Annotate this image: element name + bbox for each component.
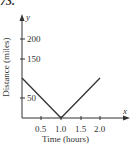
y-axis-label: Distance (miles) [1, 32, 11, 102]
y-tick-50: 50 [27, 93, 36, 103]
x-axis-label: Time (hours) [42, 134, 89, 144]
y-axis-arrow-icon [20, 14, 25, 21]
x-tick-2-0: 2.0 [94, 124, 105, 134]
chart-plot [0, 0, 134, 148]
y-tick-200: 200 [27, 34, 41, 44]
x-tick-1-5: 1.5 [75, 124, 86, 134]
y-tick-150: 150 [27, 54, 41, 64]
x-tick-0-5: 0.5 [35, 124, 46, 134]
y-axis-symbol: y [26, 12, 30, 22]
x-axis-arrow-icon [123, 116, 130, 121]
x-axis-symbol: x [123, 106, 127, 116]
x-tick-1-0: 1.0 [55, 124, 66, 134]
